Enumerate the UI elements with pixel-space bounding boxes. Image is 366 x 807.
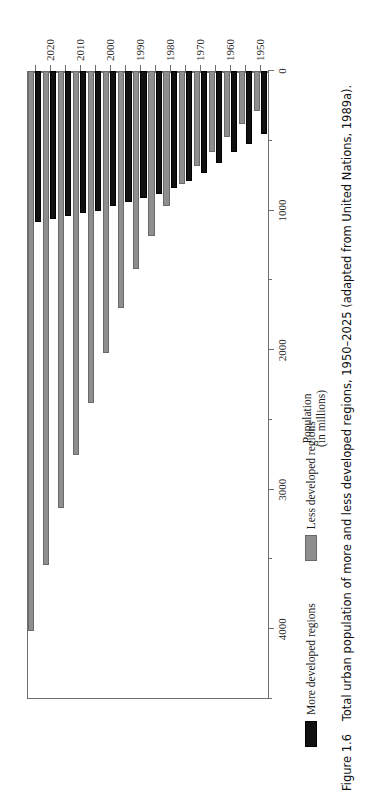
bar-less-1960	[224, 71, 230, 137]
value-axis-line	[268, 71, 269, 699]
value-tick-label-1000: 1000	[276, 200, 288, 222]
figure-caption-text: Total urban population of more and less …	[340, 85, 354, 722]
bar-more-2005	[95, 71, 101, 211]
bar-more-2015	[65, 71, 71, 216]
category-tick-label-1960: 1960	[224, 39, 236, 61]
bar-less-2015	[58, 71, 64, 508]
bar-less-1985	[148, 71, 154, 236]
legend-label-less: Less developed regions	[305, 421, 317, 529]
bar-less-1975	[179, 71, 185, 184]
value-tick-label-4000: 4000	[276, 618, 288, 640]
bar-less-1980	[163, 71, 169, 206]
value-tick-label-2000: 2000	[276, 339, 288, 361]
bar-less-1995	[118, 71, 124, 308]
category-tick-label-1990: 1990	[134, 39, 146, 61]
value-tick-minor-3500	[268, 558, 272, 559]
bar-less-1970	[194, 71, 200, 166]
bar-more-1965	[216, 71, 222, 163]
value-tick-minor-4500	[268, 698, 272, 699]
figure-number: Figure 1.6	[340, 734, 354, 791]
value-tick-1000	[268, 210, 274, 211]
value-tick-0	[268, 70, 274, 71]
bar-more-2020	[50, 71, 56, 219]
bar-less-2005	[88, 71, 94, 403]
value-tick-minor-500	[268, 140, 272, 141]
figure-stage: 0100020003000400019501960197019801990200…	[0, 0, 366, 807]
bar-more-1985	[156, 71, 162, 194]
bar-less-1965	[209, 71, 215, 152]
category-tick-label-2020: 2020	[44, 39, 56, 61]
category-tick-label-1980: 1980	[164, 39, 176, 61]
bar-more-1970	[201, 71, 207, 173]
category-tick-label-2010: 2010	[74, 39, 86, 61]
bar-more-2010	[80, 71, 86, 213]
bar-less-2010	[73, 71, 79, 455]
legend-entry-more: More developed regions	[305, 603, 317, 747]
bar-more-2000	[110, 71, 116, 206]
bar-more-2025	[35, 71, 41, 222]
bar-more-1960	[231, 71, 237, 152]
bar-more-1980	[171, 71, 177, 188]
category-tick-label-1950: 1950	[254, 39, 266, 61]
legend-swatch-less-icon	[305, 535, 317, 561]
bar-less-1950	[254, 71, 260, 111]
bar-more-1950	[261, 71, 267, 134]
value-tick-label-0: 0	[276, 68, 288, 74]
value-tick-3000	[268, 489, 274, 490]
bar-more-1975	[186, 71, 192, 181]
value-tick-label-3000: 3000	[276, 479, 288, 501]
bar-less-1990	[133, 71, 139, 269]
bar-less-2020	[43, 71, 49, 565]
legend-swatch-more-icon	[305, 721, 317, 747]
value-tick-minor-2500	[268, 419, 272, 420]
value-tick-2000	[268, 349, 274, 350]
chart-legend: More developed regionsLess developed reg…	[305, 385, 317, 747]
category-tick-label-2000: 2000	[104, 39, 116, 61]
bar-more-1990	[140, 71, 146, 198]
bar-more-1995	[125, 71, 131, 202]
bar-less-1955	[239, 71, 245, 124]
value-tick-minor-1500	[268, 279, 272, 280]
bar-less-2025	[28, 71, 34, 631]
category-tick-label-1970: 1970	[194, 39, 206, 61]
bar-less-2000	[103, 71, 109, 353]
legend-entry-less: Less developed regions	[305, 421, 317, 561]
legend-label-more: More developed regions	[305, 603, 317, 715]
figure-caption: Figure 1.6 Total urban population of mor…	[340, 11, 354, 791]
value-tick-4000	[268, 628, 274, 629]
bar-more-1955	[246, 71, 252, 144]
